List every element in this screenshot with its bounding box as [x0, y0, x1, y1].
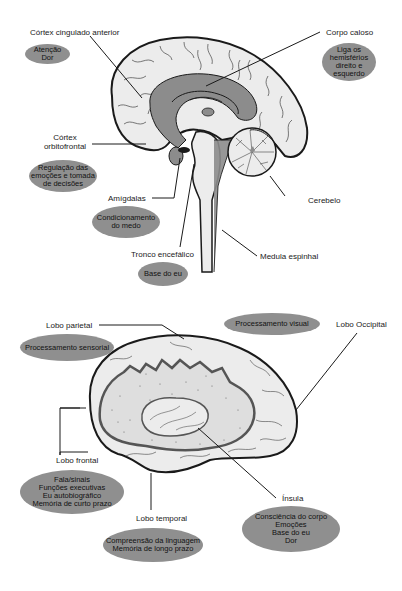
function-temporal-lobe: Compreensão da linguagem Memória de long…: [103, 528, 203, 562]
label-anterior-cingulate: Córtex cingulado anterior: [30, 28, 119, 37]
label-orbitofrontal: Córtex orbitofrontal: [40, 133, 90, 151]
function-line: Dor: [285, 537, 297, 545]
function-line: Memória de longo prazo: [113, 545, 194, 553]
function-brainstem: Base do eu: [138, 262, 188, 286]
insula: [142, 398, 208, 436]
cerebellum: [228, 128, 276, 176]
function-frontal-lobe: Fala/sinais Funções executivas Eu autobi…: [20, 470, 124, 514]
label-corpus-callosum: Corpo caloso: [326, 28, 373, 37]
function-line: Base do eu: [144, 270, 182, 278]
function-occipital-lobe: Processamento visual: [224, 313, 320, 335]
label-brainstem: Tronco encefálico: [131, 250, 194, 259]
function-orbitofrontal: Regulação das emoções e tomada de decisõ…: [29, 160, 97, 192]
function-line: do medo: [111, 222, 140, 230]
label-spinal-cord: Medula espinhal: [260, 252, 318, 261]
label-frontal-lobe: Lobo frontal: [56, 456, 98, 465]
label-line: orbitofrontal: [40, 142, 90, 151]
lateral-brain-diagram: [90, 335, 297, 472]
label-parietal-lobe: Lobo parietal: [46, 321, 92, 330]
sagittal-brain-diagram: [112, 37, 308, 272]
label-amygdala: Amígdalas: [108, 194, 146, 203]
function-insula: Consciência do corpo Emoções Base do eu …: [242, 506, 340, 552]
label-occipital-lobe: Lobo Occipital: [336, 320, 387, 329]
function-line: Processamento sensorial: [25, 344, 109, 352]
label-temporal-lobe: Lobo temporal: [136, 514, 187, 523]
label-insula: Ínsula: [282, 494, 303, 503]
function-parietal-lobe: Processamento sensorial: [20, 334, 114, 361]
label-line: Córtex: [40, 133, 90, 142]
label-cerebellum: Cerebelo: [308, 196, 340, 205]
function-line: Processamento visual: [235, 320, 308, 328]
function-anterior-cingulate: Atenção Dor: [25, 44, 70, 64]
function-line: Memória de curto prazo: [32, 500, 111, 508]
function-line: esquerdo: [333, 70, 364, 78]
function-line: Dor: [41, 54, 53, 62]
function-amygdala: Condicionamento do medo: [92, 206, 160, 238]
function-line: de decisões: [43, 180, 83, 188]
function-corpus-callosum: Liga os hemisférios direito e esquerdo: [322, 43, 376, 81]
